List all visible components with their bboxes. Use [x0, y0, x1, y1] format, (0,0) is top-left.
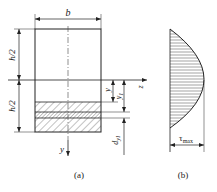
shear-distribution-figure: τmax (b) — [170, 29, 210, 180]
z-axis-label: z — [136, 85, 145, 90]
tau-max-label: τmax — [179, 133, 193, 144]
width-label: b — [66, 7, 71, 18]
y-axis-label: y — [59, 144, 64, 154]
lower-half-label: h/2 — [7, 100, 17, 112]
caption-a: (a) — [74, 170, 84, 180]
y-dim-label: y — [103, 88, 112, 93]
y1-label: y1 — [114, 93, 124, 101]
dy1-label: dy1 — [111, 135, 121, 145]
shear-stress-diagram: b h/2 h/2 y y1 dy1 z y (a) — [0, 0, 217, 192]
upper-half-label: h/2 — [7, 49, 17, 61]
caption-b: (b) — [178, 170, 189, 180]
svg-text:y1: y1 — [114, 93, 124, 101]
svg-text:dy1: dy1 — [111, 135, 121, 145]
cross-section-figure: b h/2 h/2 y y1 dy1 z y (a) — [7, 7, 147, 180]
parabola-curve — [170, 29, 204, 128]
